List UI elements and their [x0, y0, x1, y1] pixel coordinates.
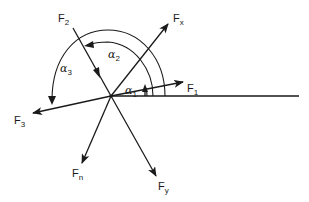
alpha3-arc: [52, 30, 165, 100]
label-alpha2: α2: [108, 48, 120, 63]
label-alpha3: α3: [60, 62, 72, 77]
label-Fn: Fn: [72, 167, 83, 182]
label-F2: F2: [58, 12, 70, 27]
label-Fx: Fx: [173, 12, 184, 27]
alpha2-arrow-icon: [84, 41, 94, 48]
label-F3: F3: [14, 114, 26, 129]
label-Fy: Fy: [158, 180, 169, 195]
origin-point: [109, 94, 112, 97]
label-alpha1: α1: [125, 84, 137, 99]
force-Fn-vector: [82, 96, 111, 163]
label-F1: F1: [187, 82, 199, 97]
force-F3-vector: [33, 96, 111, 113]
force-diagram: F1 Fx F2 F3 Fn Fy α1 α2 α3: [0, 0, 309, 202]
force-diagram-canvas: F1 Fx F2 F3 Fn Fy α1 α2 α3: [0, 0, 309, 202]
alpha3-arrow-icon: [48, 96, 56, 105]
force-Fy-vector: [111, 96, 156, 176]
force-F2-vector: [73, 28, 111, 96]
force-F2-arrow-icon: [93, 67, 100, 78]
